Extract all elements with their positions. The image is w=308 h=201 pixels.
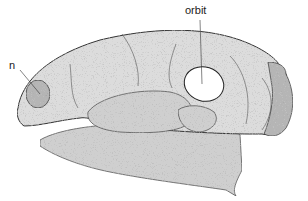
nostril-label: n [9, 59, 15, 71]
orbit-label: orbit [185, 4, 206, 16]
skull-illustration: n orbit [0, 0, 308, 201]
nostril-opening [26, 80, 50, 108]
lower-jaw [40, 124, 242, 196]
